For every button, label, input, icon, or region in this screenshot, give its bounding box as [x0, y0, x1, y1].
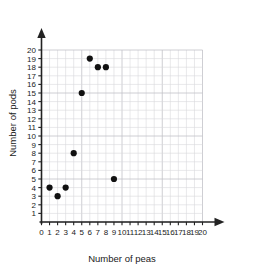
x-tick-label: 3	[63, 228, 68, 237]
data-point: (8, 18)	[103, 64, 109, 70]
y-tick-label: 12	[27, 115, 36, 124]
x-tick-label: 5	[80, 228, 85, 237]
x-tick-label: 4	[71, 228, 76, 237]
chart-canvas: 1234567891011121314151617181920 01234567…	[0, 0, 265, 271]
y-tick-label: 7	[32, 158, 37, 167]
x-tick-label: 0	[39, 228, 44, 237]
x-tick-label: 2	[55, 228, 60, 237]
x-tick-label: 7	[96, 228, 101, 237]
data-point: (2, 3)	[55, 193, 61, 199]
data-point: (5, 15)	[79, 90, 85, 96]
y-tick-label: 3	[32, 192, 37, 201]
scatter-chart: 1234567891011121314151617181920 01234567…	[0, 0, 265, 271]
data-point: (7, 18)	[95, 64, 101, 70]
data-point: (1, 4)	[46, 185, 52, 191]
y-tick-label: 1	[32, 209, 37, 218]
data-point: (9, 5)	[111, 176, 117, 182]
x-axis-title: Number of peas	[88, 253, 156, 264]
y-tick-label: 9	[32, 141, 37, 150]
y-tick-label: 13	[27, 106, 36, 115]
y-tick-label: 10	[27, 132, 36, 141]
y-tick-label: 5	[32, 175, 37, 184]
y-tick-label: 6	[32, 166, 37, 175]
y-tick-label: 17	[27, 72, 36, 81]
y-tick-label: 11	[28, 123, 37, 132]
y-tick-label: 4	[32, 184, 37, 193]
x-tick-label: 9	[112, 228, 117, 237]
y-tick-label: 14	[27, 98, 36, 107]
gridlines	[42, 50, 203, 222]
x-axis-tick-labels: 01234567891011121314151617181920	[39, 228, 207, 237]
x-tick-label: 6	[88, 228, 93, 237]
y-tick-label: 8	[32, 149, 37, 158]
y-tick-label: 18	[27, 63, 36, 72]
data-point: (4, 8)	[71, 150, 77, 156]
y-tick-label: 19	[27, 55, 36, 64]
y-tick-label: 16	[27, 80, 36, 89]
x-tick-label: 8	[104, 228, 109, 237]
data-point: (3, 4)	[63, 185, 69, 191]
y-tick-label: 20	[27, 46, 36, 55]
y-axis-title: Number of pods	[7, 89, 18, 157]
y-tick-label: 15	[27, 89, 36, 98]
x-tick-label: 20	[198, 228, 207, 237]
data-point: (6, 19)	[87, 56, 93, 62]
y-tick-label: 2	[32, 201, 37, 210]
x-tick-label: 1	[47, 228, 52, 237]
